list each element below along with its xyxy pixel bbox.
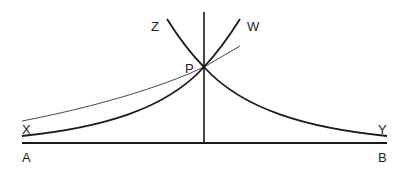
- label-p: P: [185, 61, 194, 76]
- label-a: A: [22, 150, 31, 165]
- tangent-curve: [22, 46, 240, 121]
- curve-z-p-y: [167, 19, 387, 136]
- diagram-svg: Z W P X Y A B: [0, 0, 406, 173]
- label-z: Z: [151, 19, 159, 34]
- point-p-marker: [202, 65, 205, 68]
- label-b: B: [378, 150, 387, 165]
- curve-x-p-w: [22, 19, 240, 136]
- label-w: W: [247, 19, 260, 34]
- diagram-canvas: Z W P X Y A B: [0, 0, 406, 173]
- label-x: X: [22, 122, 31, 137]
- label-y: Y: [378, 122, 387, 137]
